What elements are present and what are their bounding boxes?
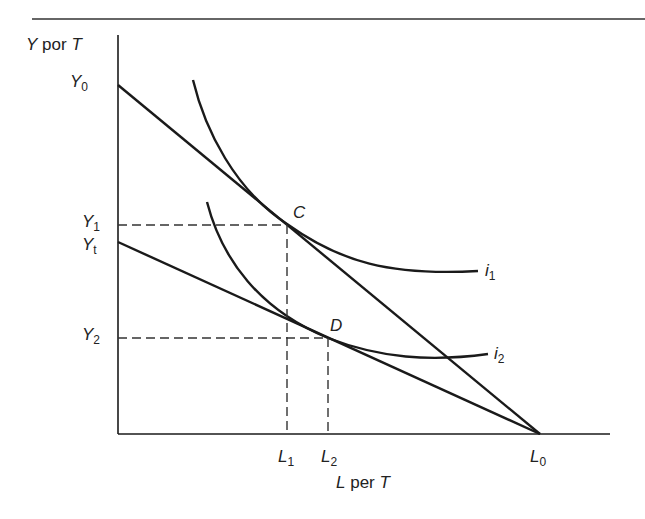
y-axis-unit: T <box>71 35 81 54</box>
curve-i1-label: i1 <box>485 262 495 279</box>
curve-i2-label: i2 <box>494 345 504 362</box>
tick-sub: 0 <box>81 80 88 94</box>
x-axis-title: L per T <box>336 474 390 491</box>
tick-var: Y <box>82 212 93 231</box>
tick-sub: 2 <box>330 455 337 469</box>
tick-yt: Yt <box>82 236 97 253</box>
tick-var: Y <box>82 235 93 254</box>
y-axis-title: Y por T <box>26 36 82 53</box>
tick-y1: Y1 <box>82 213 100 230</box>
tick-sub: t <box>93 243 96 257</box>
tick-sub: 1 <box>93 220 100 234</box>
point-c-label: C <box>293 204 305 221</box>
diagram-canvas <box>0 0 645 519</box>
x-axis-word: per <box>350 473 375 492</box>
tick-sub: 1 <box>287 455 294 469</box>
x-axis-var: L <box>336 473 345 492</box>
curve-sub: 2 <box>498 352 505 366</box>
tick-l2: L2 <box>321 448 337 465</box>
point-d-label: D <box>330 317 342 334</box>
indifference-curve-i1 <box>193 80 478 272</box>
tick-var: Y <box>70 72 81 91</box>
y-axis-word: por <box>42 35 67 54</box>
tick-var: Y <box>82 325 93 344</box>
x-axis-unit: T <box>380 473 390 492</box>
tick-l0: L0 <box>530 448 546 465</box>
tick-sub: 0 <box>539 455 546 469</box>
curve-sub: 1 <box>489 269 496 283</box>
y-axis-var: Y <box>26 35 37 54</box>
tick-l1: L1 <box>278 448 294 465</box>
tick-sub: 2 <box>93 333 100 347</box>
budget-line-y0-l0 <box>118 85 540 434</box>
tick-y0: Y0 <box>70 73 88 90</box>
tick-y2: Y2 <box>82 326 100 343</box>
